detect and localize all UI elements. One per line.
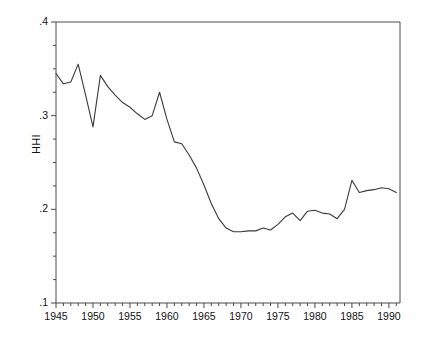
plot-frame xyxy=(56,22,400,303)
y-tick-label: .3 xyxy=(22,109,48,121)
y-axis-title: HHI xyxy=(30,114,42,174)
x-tick-label: 1955 xyxy=(110,310,150,322)
plot-canvas xyxy=(0,0,421,342)
x-tick-label: 1975 xyxy=(258,310,298,322)
x-tick-label: 1960 xyxy=(147,310,187,322)
data-line-series xyxy=(56,64,396,232)
y-tick-label: .1 xyxy=(22,296,48,308)
x-tick-label: 1965 xyxy=(184,310,224,322)
x-tick-label: 1950 xyxy=(73,310,113,322)
y-tick-label: .4 xyxy=(22,15,48,27)
y-tick-label: .2 xyxy=(22,202,48,214)
x-tick-label: 1945 xyxy=(36,310,76,322)
x-tick-label: 1970 xyxy=(221,310,261,322)
x-tick-label: 1980 xyxy=(295,310,335,322)
axis-ticks xyxy=(51,22,396,308)
x-tick-label: 1990 xyxy=(369,310,409,322)
hhi-line-chart: HHI .1.2.3.4 194519501955196019651970197… xyxy=(0,0,421,342)
x-tick-label: 1985 xyxy=(332,310,372,322)
